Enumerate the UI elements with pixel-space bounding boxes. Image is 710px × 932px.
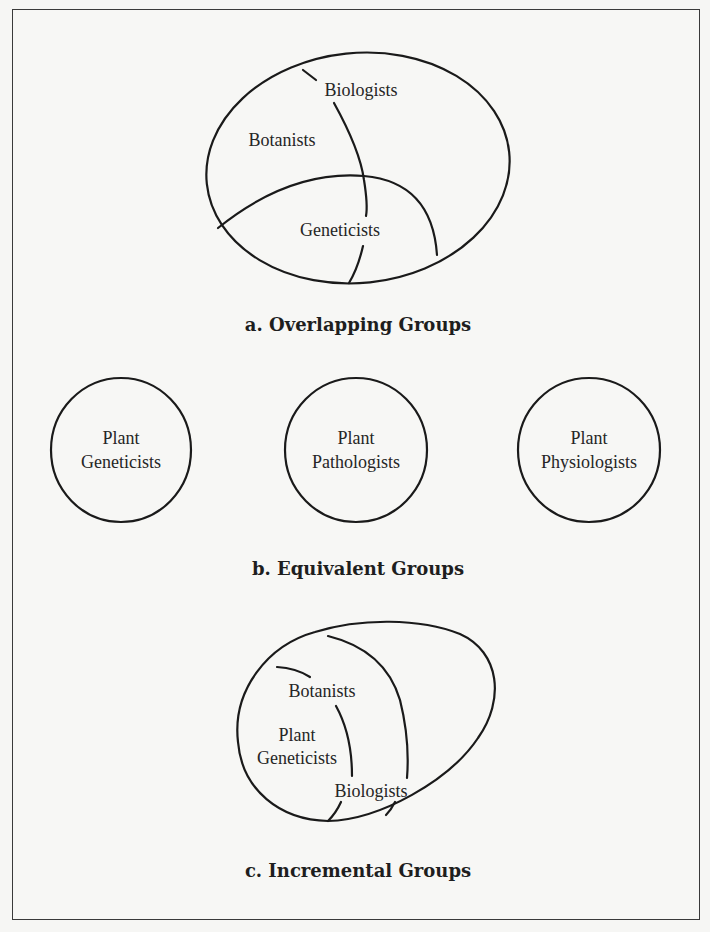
biologists-boundary-upper — [334, 103, 367, 216]
botanists-boundary-middle — [336, 706, 352, 776]
label-plant-geneticists-line2: Geneticists — [257, 748, 337, 768]
label-botanists: Botanists — [288, 681, 355, 701]
label-plant-physiologists-line2: Physiologists — [541, 452, 637, 472]
biologists-boundary-lower — [349, 246, 363, 283]
panel-overlapping-groups: Biologists Botanists Geneticists a. Over… — [195, 38, 521, 335]
label-plant-physiologists-line1: Plant — [570, 428, 607, 448]
label-plant-geneticists-line1: Plant — [278, 725, 315, 745]
caption-incremental-groups: c. Incremental Groups — [245, 860, 471, 881]
circle-plant-physiologists — [518, 378, 660, 522]
botanists-boundary-upper — [277, 667, 310, 677]
label-plant-geneticists-line1: Plant — [102, 428, 139, 448]
caption-overlapping-groups: a. Overlapping Groups — [245, 314, 471, 335]
panel-equivalent-groups: Plant Geneticists Plant Pathologists Pla… — [51, 378, 660, 579]
biologists-boundary-lower — [386, 802, 395, 815]
label-plant-geneticists-line2: Geneticists — [81, 452, 161, 472]
circle-plant-geneticists — [51, 378, 191, 522]
label-geneticists: Geneticists — [300, 220, 380, 240]
diagram-canvas: Biologists Botanists Geneticists a. Over… — [0, 0, 710, 932]
biologists-boundary-tick — [303, 70, 316, 80]
label-biologists: Biologists — [324, 80, 397, 100]
label-plant-pathologists-line1: Plant — [337, 428, 374, 448]
label-botanists: Botanists — [248, 130, 315, 150]
circle-plant-pathologists — [285, 378, 427, 522]
caption-equivalent-groups: b. Equivalent Groups — [252, 558, 464, 579]
panel-incremental-groups: Botanists Plant Geneticists Biologists c… — [237, 622, 495, 881]
biologists-boundary-upper — [328, 636, 408, 778]
botanists-boundary-lower — [328, 802, 341, 821]
geneticists-boundary — [218, 175, 437, 255]
outer-ellipse-overlapping — [195, 38, 521, 299]
label-plant-pathologists-line2: Pathologists — [312, 452, 400, 472]
label-biologists: Biologists — [334, 781, 407, 801]
